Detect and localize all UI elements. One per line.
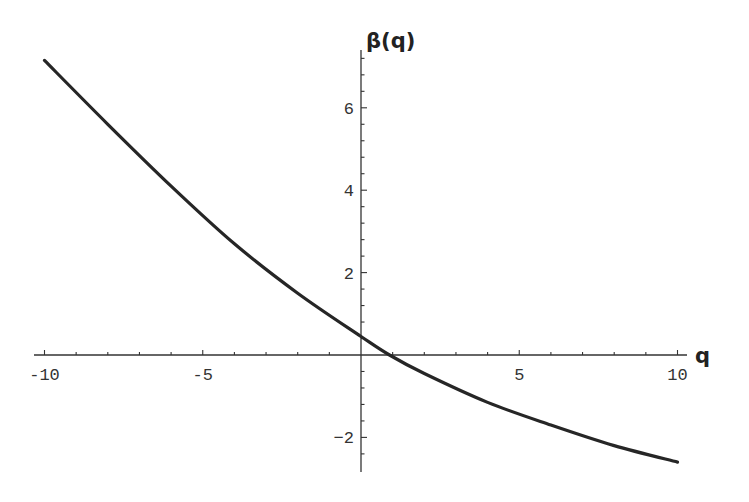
x-tick-label: -5 <box>193 366 213 385</box>
x-axis-label: q <box>695 344 710 368</box>
axes: -10-5510−2246 <box>29 50 688 472</box>
x-tick-label: 10 <box>667 366 687 385</box>
y-tick-label: 2 <box>344 265 354 284</box>
x-tick-label: -10 <box>29 366 60 385</box>
x-tick-label: 5 <box>514 366 524 385</box>
y-axis-label: β(q) <box>366 29 415 53</box>
y-tick-label: 4 <box>344 182 354 201</box>
y-tick-label: −2 <box>334 429 354 448</box>
chart: -10-5510−2246 β(q) q <box>0 0 749 502</box>
y-tick-label: 6 <box>344 100 354 119</box>
